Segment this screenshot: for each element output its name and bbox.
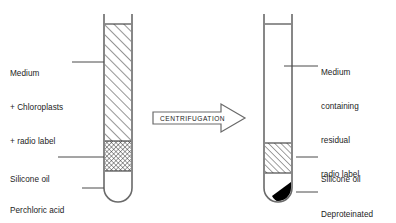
tube-after-contents	[260, 24, 300, 208]
layer-medium-residual	[260, 24, 300, 143]
tube-before-contents	[100, 24, 140, 206]
layer-medium-chloroplasts	[100, 24, 140, 141]
label-residual-line-1: Medium	[321, 67, 359, 78]
label-medium-line-3: + radio label	[10, 136, 63, 147]
centrifugation-arrow-label: CENTRIFUGATION	[160, 115, 225, 122]
label-pellet-line-1: Deproteinated	[321, 209, 373, 220]
label-silicone-after-text: Silicone oil	[321, 174, 361, 185]
layer-silicone-oil-after	[260, 143, 300, 173]
label-residual-line-3: residual	[321, 135, 359, 146]
label-residual-line-2: containing	[321, 101, 359, 112]
label-medium-line-1: Medium	[10, 68, 63, 79]
label-perchloric-acid: Perchloric acid in sucrose	[10, 182, 64, 223]
label-perchloric-line-1: Perchloric acid	[10, 205, 64, 216]
label-medium-line-2: + Chloroplasts	[10, 102, 63, 113]
figure-canvas: Medium + Chloroplasts + radio label Sili…	[0, 0, 396, 223]
label-deproteinated-chloroplasts: Deproteinated chloroplasts	[321, 186, 373, 223]
layer-perchloric-acid	[100, 171, 140, 206]
layer-silicone-oil-before	[100, 141, 140, 171]
